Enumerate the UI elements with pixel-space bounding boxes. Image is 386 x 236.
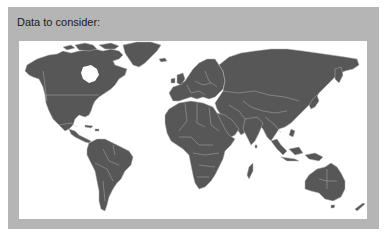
panel-title: Data to consider: bbox=[17, 16, 100, 28]
india bbox=[243, 117, 263, 145]
data-panel: Data to consider: bbox=[8, 7, 379, 229]
kamchatka bbox=[335, 67, 343, 83]
australia bbox=[305, 163, 345, 201]
world-map-graphic bbox=[19, 41, 367, 219]
greenland bbox=[123, 42, 161, 67]
tasmania bbox=[331, 205, 335, 208]
iceland bbox=[159, 58, 167, 62]
north-america bbox=[25, 49, 127, 131]
madagascar bbox=[247, 163, 253, 179]
southeast-asia bbox=[271, 129, 323, 161]
world-map bbox=[19, 41, 367, 219]
central-america bbox=[69, 129, 91, 143]
new-zealand bbox=[355, 203, 365, 211]
sri-lanka bbox=[255, 145, 257, 148]
caribbean bbox=[85, 125, 99, 131]
